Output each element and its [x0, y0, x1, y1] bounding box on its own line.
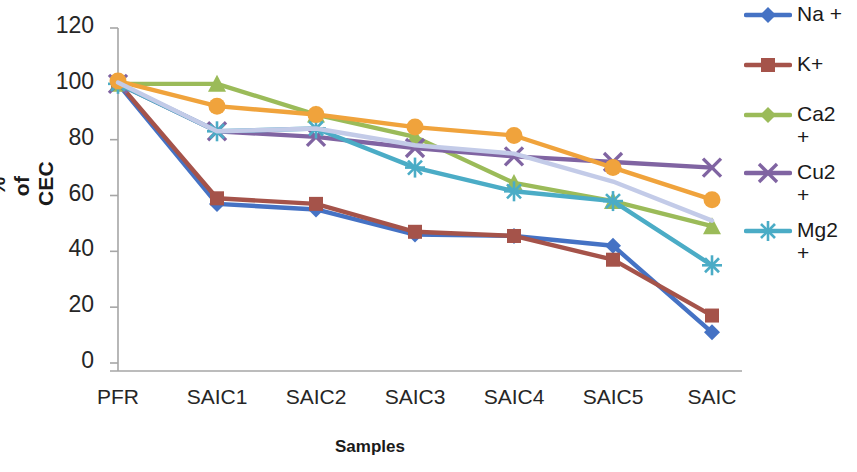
data-point-marker	[507, 229, 521, 243]
legend-item[interactable]: Cu2 +	[744, 162, 836, 206]
legend-swatch-icon	[744, 162, 792, 184]
data-point-marker	[705, 309, 719, 323]
series-line	[118, 82, 712, 315]
legend-item[interactable]: K+	[744, 54, 823, 76]
data-point-marker	[210, 191, 224, 205]
legend-label: Mg2 +	[797, 218, 838, 264]
legend-item[interactable]: Ca2 +	[744, 104, 836, 148]
legend-item[interactable]: Na +	[744, 4, 842, 26]
legend-swatch-icon	[744, 4, 792, 26]
legend-item[interactable]: Mg2 +	[744, 220, 838, 264]
data-point-marker	[209, 98, 226, 115]
legend-label: Ca2 +	[797, 102, 836, 148]
legend-swatch-icon	[744, 220, 792, 242]
data-point-marker	[605, 159, 622, 176]
data-point-marker	[760, 107, 776, 123]
chart-container: % of CEC 120100806040200 PFRSAIC1SAIC2SA…	[0, 0, 857, 472]
data-point-marker	[506, 127, 523, 144]
legend-label: Na +	[797, 2, 842, 25]
data-point-marker	[408, 225, 422, 239]
data-point-marker	[606, 253, 620, 267]
data-point-marker	[704, 191, 721, 208]
chart-legend: Na +K+Ca2 +Cu2 +Mg2 +	[744, 0, 857, 250]
data-point-marker	[760, 7, 776, 23]
data-point-marker	[308, 106, 325, 123]
plot-area	[0, 0, 857, 472]
legend-label: K+	[797, 52, 823, 75]
series-na	[110, 76, 720, 340]
legend-swatch-icon	[744, 104, 792, 126]
x-axis-title: Samples	[0, 437, 740, 457]
legend-label: Cu2 +	[797, 160, 836, 206]
data-point-marker	[309, 197, 323, 211]
data-point-marker	[407, 119, 424, 136]
series-k	[111, 75, 719, 322]
data-point-marker	[761, 58, 775, 72]
legend-swatch-icon	[744, 54, 792, 76]
